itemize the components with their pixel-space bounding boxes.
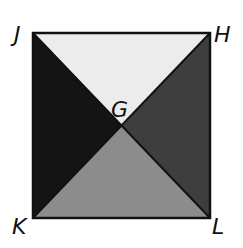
- vertex-label-h: H: [214, 22, 231, 47]
- vertex-label-k: K: [12, 214, 28, 239]
- vertex-label-j: J: [10, 22, 21, 47]
- vertex-label-l: L: [212, 214, 224, 239]
- square-diagonals-diagram: J H K L G: [0, 0, 243, 248]
- center-label-g: G: [111, 97, 128, 122]
